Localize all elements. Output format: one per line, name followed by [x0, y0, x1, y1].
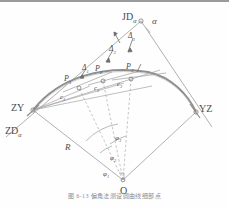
label-chord-c3: c3 [117, 81, 122, 90]
dashed-radius-p3 [123, 79, 131, 180]
label-point-p1: P1 [64, 75, 71, 86]
angle-arc-alpha [146, 28, 150, 33]
label-alpha: α [152, 17, 157, 26]
label-chord-c1: c1 [60, 94, 65, 103]
dashed-radius-p2 [103, 81, 123, 180]
label-phi3: φ3 [115, 135, 121, 144]
label-delta2: Δ2 [109, 45, 116, 55]
label-delta3: Δ3 [128, 32, 135, 42]
figure-caption: 图 6-13 偏角法测设圆曲线细部点 [0, 193, 229, 200]
label-point-p2: P2 [95, 65, 102, 76]
point-marker-p1 [77, 86, 81, 90]
label-jd: JDα [122, 12, 136, 24]
label-zd-alpha: ZDα [5, 126, 22, 138]
label-chord-c2: c2 [94, 85, 99, 94]
circular-curve-path [33, 70, 196, 112]
label-yz: YZ [199, 104, 212, 114]
figure-container: JDα α ZY YZ ZDα O R P1 P2 P3 c1 c2 c3 Δ1… [0, 0, 229, 209]
label-delta1: Δ1 [82, 64, 89, 74]
label-radius-r: R [65, 143, 71, 152]
label-phi1: φ1 [103, 171, 109, 180]
label-zy: ZY [11, 103, 24, 113]
radius-line-o-yz [123, 112, 196, 180]
curve-diagram-svg [0, 0, 229, 209]
label-point-p3: P3 [126, 63, 133, 74]
label-phi2: φ2 [110, 155, 116, 164]
radius-line-zy-o [33, 110, 123, 180]
angle-arc-phi1 [100, 146, 112, 153]
